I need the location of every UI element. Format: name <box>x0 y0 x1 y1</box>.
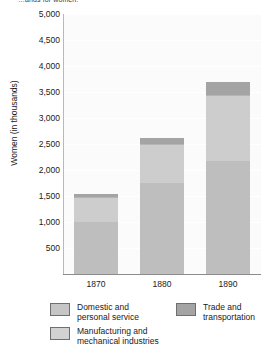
stacked-bar <box>140 138 184 274</box>
y-tick-label: 500 <box>2 243 60 253</box>
x-tick-label: 1890 <box>198 279 258 289</box>
x-tick-label: 1880 <box>132 279 192 289</box>
legend-label-domestic: Domestic and personal service <box>77 302 139 322</box>
y-tick-label: 5,000 <box>2 9 60 19</box>
legend-label-trade: Trade and transportation <box>203 302 255 322</box>
legend-item-trade: Trade and transportation <box>176 302 255 322</box>
y-axis-line <box>63 14 64 275</box>
y-tick-label: 1,000 <box>2 217 60 227</box>
gridline <box>63 40 261 41</box>
chart-figure: …ands for women. 5001,0001,5002,0002,500… <box>0 0 273 352</box>
bar-segment-manufacturing <box>74 197 118 222</box>
bar-segment-domestic <box>140 183 184 274</box>
bar-segment-domestic <box>74 222 118 274</box>
bar-segment-trade <box>206 82 250 95</box>
legend-swatch-trade-icon <box>176 303 196 316</box>
legend-swatch-manufacturing-icon <box>50 327 70 340</box>
bar-segment-domestic <box>206 161 250 274</box>
legend-item-domestic: Domestic and personal service <box>50 302 139 322</box>
legend-item-manufacturing: Manufacturing and mechanical industries <box>50 326 159 346</box>
gridline <box>63 14 261 15</box>
y-tick-label: 1,500 <box>2 191 60 201</box>
y-axis-title: Women (in thousands) <box>9 63 19 183</box>
legend-label-manufacturing: Manufacturing and mechanical industries <box>77 326 159 346</box>
gridline <box>63 66 261 67</box>
stacked-bar <box>74 194 118 274</box>
bar-segment-manufacturing <box>140 144 184 183</box>
x-tick-label: 1870 <box>66 279 126 289</box>
chart-legend: Domestic and personal service Trade and … <box>50 302 273 350</box>
y-tick-label: 4,500 <box>2 35 60 45</box>
stacked-bar <box>206 82 250 274</box>
x-axis-line <box>63 274 261 275</box>
bar-segment-manufacturing <box>206 95 250 162</box>
legend-swatch-domestic-icon <box>50 303 70 316</box>
